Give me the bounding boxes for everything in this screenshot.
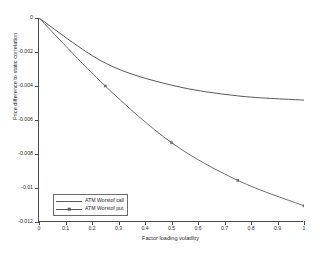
y-tick — [35, 52, 39, 53]
y-tick-label: 0 — [30, 15, 33, 20]
x-tick-label: 0 — [38, 226, 41, 231]
data-point-marker — [104, 85, 107, 88]
legend: ATM Worstof call ATM Worstof put — [53, 194, 128, 216]
y-tick — [35, 188, 39, 189]
x-tick-label: 1 — [303, 226, 306, 231]
y-tick-label: -0.012 — [18, 219, 33, 224]
y-tick — [35, 120, 39, 121]
data-point-marker — [303, 205, 304, 208]
series-layer — [39, 18, 304, 207]
x-tick-label: 0.6 — [194, 226, 201, 231]
y-tick — [35, 154, 39, 155]
y-tick-label: -0.008 — [18, 151, 33, 156]
legend-item-call: ATM Worstof call — [56, 197, 124, 205]
data-point-marker — [236, 179, 239, 182]
legend-label-put: ATM Worstof put — [85, 206, 123, 211]
y-tick — [35, 86, 39, 87]
plot-area: 0-0.002-0.004-0.006-0.008-0.01-0.012 00.… — [38, 18, 303, 222]
x-tick-label: 0.3 — [115, 226, 122, 231]
x-axis-title: Factor loading volatility — [38, 236, 303, 242]
y-tick-label: -0.002 — [18, 49, 33, 54]
x-tick-label: 0.1 — [62, 226, 69, 231]
figure-canvas: Price difference to static correlation 0… — [0, 0, 320, 255]
y-axis-title: Price difference to static correlation — [13, 33, 19, 120]
x-tick-label: 0.5 — [168, 226, 175, 231]
x-tick-label: 0.7 — [221, 226, 228, 231]
legend-line-icon-call — [56, 197, 82, 205]
legend-item-put: ATM Worstof put — [56, 205, 124, 213]
x-tick-label: 0.8 — [247, 226, 254, 231]
y-tick-label: -0.006 — [18, 117, 33, 122]
y-tick-label: -0.01 — [21, 185, 33, 190]
chart-screenshot: Price difference to static correlation 0… — [0, 0, 320, 255]
y-tick-label: -0.004 — [18, 83, 33, 88]
y-tick — [35, 18, 39, 19]
x-tick-label: 0.4 — [141, 226, 148, 231]
plot-svg — [39, 18, 304, 222]
x-tick-label: 0.2 — [88, 226, 95, 231]
x-tick-label: 0.9 — [274, 226, 281, 231]
legend-line-icon-put — [56, 205, 82, 213]
legend-label-call: ATM Worstof call — [85, 198, 124, 203]
data-point-marker — [170, 141, 173, 144]
